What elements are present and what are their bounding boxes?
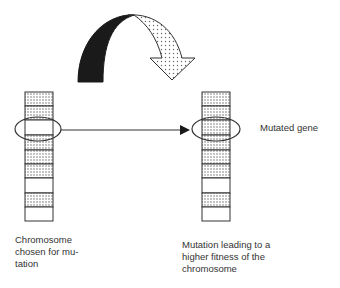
curved-arrow-icon [78, 15, 195, 82]
left-chromosome-label: Chromosome chosen for mu- tation [15, 234, 125, 270]
left-chromosome [15, 92, 61, 221]
right-chromosome-label: Mutation leading to a higher fitness of … [182, 239, 322, 275]
mutation-arrow [61, 125, 190, 135]
right-chromosome [192, 92, 240, 221]
mutated-gene-label: Mutated gene [260, 122, 318, 134]
